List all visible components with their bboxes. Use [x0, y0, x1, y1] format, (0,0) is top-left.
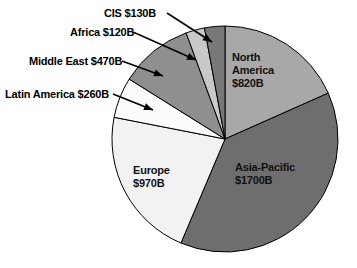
slice-label-europe-line2: $970B — [133, 177, 170, 190]
callout-label-middle-east: Middle East $470B — [29, 55, 122, 67]
slice-label-asia-pacific: Asia-Pacific $1700B — [235, 161, 295, 187]
pie-slices-group — [112, 26, 338, 252]
pie-chart-figure: CIS $130B Africa $120B Middle East $470B… — [0, 0, 357, 268]
callout-label-latin-america-text: Latin America $260B — [5, 88, 109, 100]
slice-label-asia-pacific-line2: $1700B — [235, 174, 295, 187]
slice-label-north-america-line3: $820B — [232, 77, 274, 90]
pie-chart-canvas — [0, 0, 357, 268]
slice-label-europe: Europe $970B — [133, 164, 170, 190]
slice-label-north-america-line1: North — [232, 51, 274, 64]
callout-label-middle-east-text: Middle East $470B — [29, 55, 122, 67]
callout-label-africa: Africa $120B — [70, 26, 134, 38]
slice-label-europe-line1: Europe — [133, 164, 170, 177]
callout-label-cis-text: CIS $130B — [104, 7, 156, 19]
callout-label-africa-text: Africa $120B — [70, 26, 134, 38]
slice-label-north-america: North America $820B — [232, 51, 274, 90]
slice-label-north-america-line2: America — [232, 64, 274, 77]
slice-label-asia-pacific-line1: Asia-Pacific — [235, 161, 295, 174]
callout-label-latin-america: Latin America $260B — [5, 88, 109, 100]
callout-label-cis: CIS $130B — [104, 7, 156, 19]
